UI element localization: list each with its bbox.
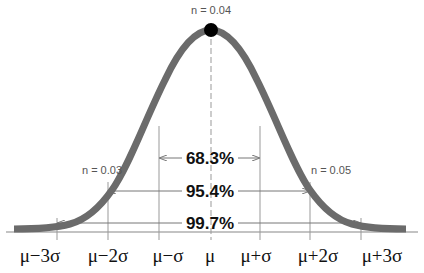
tick-mu-minus-3sigma: μ−3σ xyxy=(20,245,61,266)
sigma-gridlines xyxy=(57,30,361,240)
peak-annotation: n = 0.04 xyxy=(191,4,231,16)
tick-mu-plus-2sigma: μ+2σ xyxy=(298,245,339,266)
right-annotation: n = 0.05 xyxy=(311,164,351,176)
interval-label-99: 99.7% xyxy=(186,214,234,233)
x-tick-labels: μ−3σ μ−2σ μ−σ μ μ+σ μ+2σ μ+3σ xyxy=(20,245,403,266)
interval-label-95: 95.4% xyxy=(186,182,234,201)
left-annotation: n = 0.03 xyxy=(82,164,122,176)
tick-mu-plus-sigma: μ+σ xyxy=(240,245,271,266)
tick-mu-minus-2sigma: μ−2σ xyxy=(88,245,129,266)
peak-dot xyxy=(204,23,218,37)
tick-mu-minus-sigma: μ−σ xyxy=(152,245,183,266)
interval-label-68: 68.3% xyxy=(186,149,234,168)
tick-mu-plus-3sigma: μ+3σ xyxy=(362,245,403,266)
tick-mu: μ xyxy=(205,245,215,266)
normal-distribution-diagram: n = 0.04 n = 0.03 n = 0.05 68.3% 95.4% 9… xyxy=(0,0,424,273)
